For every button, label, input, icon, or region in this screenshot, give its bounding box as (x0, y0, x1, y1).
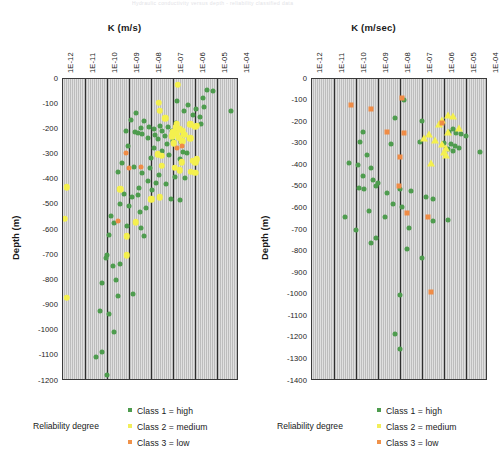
left-legend-item[interactable]: Class 1 = high (128, 404, 193, 416)
left-data-point (144, 205, 149, 210)
left-data-point (110, 263, 115, 268)
left-x-tick (63, 379, 64, 380)
left-data-point (142, 119, 147, 124)
right-legend-item[interactable]: Class 3 = low (377, 436, 439, 448)
right-y-tick-label: -700 (267, 225, 307, 234)
left-data-point (120, 161, 125, 166)
right-y-tick (311, 144, 312, 145)
right-x-tick-label: 1E-11 (337, 53, 346, 73)
left-gridline (151, 79, 152, 379)
right-data-point (361, 187, 366, 192)
left-y-tick-label: -1000 (18, 325, 58, 334)
left-data-point (192, 169, 199, 176)
left-y-tick-label: -100 (18, 99, 58, 108)
left-data-point (149, 187, 154, 192)
left-data-point (229, 108, 234, 113)
left-data-point (155, 100, 162, 107)
right-data-point (430, 196, 435, 201)
left-data-point (105, 372, 110, 377)
left-data-point (163, 134, 168, 139)
left-x-tick (173, 379, 174, 380)
left-y-tick-label: -1100 (18, 350, 58, 359)
right-data-point (369, 240, 374, 245)
right-data-point (384, 190, 389, 195)
left-y-tick-label: -1200 (18, 376, 58, 385)
right-x-tick-label: 1E-10 (359, 52, 368, 73)
left-legend-item[interactable]: Class 3 = low (128, 436, 190, 448)
legend-title-left: Reliability degree (33, 421, 99, 431)
legend-left: Reliability degree Class 1 = highClass 2… (0, 404, 249, 452)
left-data-point (132, 219, 139, 226)
left-gridline (107, 79, 108, 379)
right-legend-swatch-icon (377, 440, 381, 444)
right-x-tick-label: 1E-09 (381, 52, 390, 73)
left-data-point (197, 114, 202, 119)
right-data-point (450, 148, 455, 153)
right-y-tick-label: -1000 (267, 289, 307, 298)
left-data-point (184, 150, 189, 155)
left-data-point (100, 281, 105, 286)
left-legend-item[interactable]: Class 2 = medium (128, 420, 208, 432)
right-legend-item[interactable]: Class 1 = high (377, 404, 442, 416)
chart-panel-right: K (m/sec) Depth (m) 1E-121E-111E-101E-09… (249, 0, 498, 456)
left-data-point (135, 193, 140, 198)
left-gridline (129, 79, 130, 379)
left-data-point (104, 256, 109, 261)
right-x-tick-label: 1E-07 (425, 52, 434, 73)
right-gridline (400, 79, 401, 379)
left-data-point (169, 133, 176, 140)
left-data-point (148, 165, 153, 170)
right-data-point (355, 163, 360, 168)
left-y-tick (62, 79, 63, 80)
left-legend-label: Class 2 = medium (137, 421, 208, 433)
right-y-tick (311, 165, 312, 166)
right-data-point (423, 194, 428, 199)
right-y-tick (311, 338, 312, 339)
right-x-tick (466, 379, 467, 380)
left-x-tick-label: 1E-10 (110, 52, 119, 73)
left-data-point (130, 195, 135, 200)
left-y-tick (62, 104, 63, 105)
right-data-point (389, 141, 394, 146)
left-data-point (162, 115, 169, 122)
right-y-tick (311, 273, 312, 274)
left-data-point (136, 185, 141, 190)
left-data-point (93, 355, 98, 360)
right-data-point (347, 161, 352, 166)
right-y-tick (311, 295, 312, 296)
left-data-point (140, 171, 145, 176)
left-data-point (115, 169, 120, 174)
right-data-point (373, 183, 378, 188)
left-data-point (142, 234, 147, 239)
left-data-point (106, 232, 111, 237)
left-data-point (146, 136, 151, 141)
left-data-point (64, 295, 71, 302)
left-data-point (117, 186, 124, 193)
plot-area-right (311, 78, 487, 380)
left-data-point (152, 145, 157, 150)
left-data-point (156, 173, 161, 178)
left-data-point (139, 226, 144, 231)
left-data-point (190, 112, 195, 117)
right-legend-item[interactable]: Class 2 = medium (377, 420, 457, 432)
right-y-tick-label: -100 (267, 95, 307, 104)
left-data-point (157, 194, 164, 201)
left-data-point (64, 184, 71, 191)
right-data-point (427, 160, 435, 167)
right-data-point (404, 247, 409, 252)
right-data-point (393, 331, 398, 336)
left-legend-swatch-icon (128, 408, 132, 412)
right-y-tick (311, 230, 312, 231)
left-data-point (155, 137, 160, 142)
left-data-point (108, 214, 113, 219)
left-data-point (168, 197, 173, 202)
right-y-tick-label: 0 (267, 74, 307, 83)
right-data-point (357, 139, 362, 144)
left-y-tick-label: -900 (18, 300, 58, 309)
right-data-point (430, 219, 435, 224)
left-data-point (159, 128, 164, 133)
right-data-point (399, 96, 404, 101)
left-y-tick-label: -800 (18, 275, 58, 284)
left-data-point (166, 152, 171, 157)
left-x-tick (217, 379, 218, 380)
